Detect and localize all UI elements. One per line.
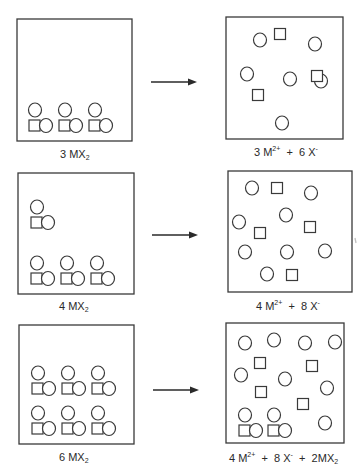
anion-circle: [103, 382, 116, 396]
anion-circle: [31, 200, 44, 214]
anion-circle: [276, 116, 289, 130]
anion-circle: [42, 216, 55, 230]
anion-circle: [32, 406, 45, 420]
anion-circle: [235, 368, 248, 382]
cation-square: [92, 383, 103, 394]
anion-circle: [31, 256, 44, 270]
anion-circle: [29, 103, 42, 117]
anion-circle: [329, 335, 342, 349]
anion-circle: [239, 245, 252, 259]
cation-square: [255, 228, 266, 239]
row1-left-label: 3 MX2: [60, 148, 90, 161]
cation-square: [32, 383, 43, 394]
anion-circle: [70, 119, 83, 133]
cation-square: [29, 120, 40, 131]
anion-circle: [250, 424, 263, 438]
cation-square: [92, 423, 103, 434]
anion-circle: [61, 256, 74, 270]
anion-circle: [92, 406, 105, 420]
cation-square: [287, 270, 298, 281]
row2-left-label: 4 MX2: [59, 300, 89, 313]
anion-circle: [89, 103, 102, 117]
dissolution-diagram: [0, 0, 361, 473]
row3-arrow-head: [190, 387, 199, 394]
cation-square: [62, 383, 73, 394]
anion-circle: [281, 245, 294, 259]
cation-square: [256, 387, 267, 398]
anion-circle: [72, 272, 85, 286]
cation-square: [307, 361, 318, 372]
anion-circle: [43, 382, 56, 396]
anion-circle: [91, 256, 104, 270]
anion-circle: [239, 408, 252, 422]
anion-circle: [233, 215, 246, 229]
anion-circle: [246, 181, 259, 195]
anion-circle: [92, 366, 105, 380]
anion-circle: [241, 67, 254, 81]
anion-circle: [62, 366, 75, 380]
anion-circle: [305, 186, 318, 200]
anion-circle: [279, 372, 292, 386]
anion-circle: [268, 408, 281, 422]
cation-square: [272, 183, 283, 194]
cation-square: [59, 120, 70, 131]
cation-square: [31, 273, 42, 284]
cation-square: [268, 425, 279, 436]
row2-arrow-head: [189, 232, 198, 239]
cation-square: [275, 29, 286, 40]
anion-circle: [100, 119, 113, 133]
cation-square: [312, 71, 323, 82]
anion-circle: [309, 37, 322, 51]
scan-artifact: [355, 238, 356, 243]
anion-circle: [32, 366, 45, 380]
row1-arrow-head: [188, 79, 197, 86]
cation-square: [62, 423, 73, 434]
anion-circle: [42, 272, 55, 286]
anion-circle: [40, 119, 53, 133]
anion-circle: [279, 424, 292, 438]
row3-left-label: 6 MX2: [59, 451, 89, 464]
cation-square: [255, 358, 266, 369]
row3-right-label: 4 M2+ + 8 X- + 2MX2: [229, 451, 338, 465]
anion-circle: [62, 406, 75, 420]
anion-circle: [299, 336, 312, 350]
anion-circle: [102, 272, 115, 286]
anion-circle: [268, 333, 281, 347]
anion-circle: [319, 244, 332, 258]
anion-circle: [254, 33, 267, 47]
anion-circle: [73, 382, 86, 396]
cation-square: [253, 90, 264, 101]
anion-circle: [43, 422, 56, 436]
anion-circle: [280, 208, 293, 222]
anion-circle: [321, 381, 334, 395]
anion-circle: [284, 72, 297, 86]
cation-square: [305, 222, 316, 233]
anion-circle: [73, 422, 86, 436]
row1-right-label: 3 M2+ + 6 X-: [254, 145, 318, 158]
anion-circle: [319, 416, 332, 430]
anion-circle: [239, 336, 252, 350]
anion-circle: [261, 267, 274, 281]
cation-square: [239, 425, 250, 436]
cation-square: [32, 423, 43, 434]
anion-circle: [103, 422, 116, 436]
cation-square: [31, 217, 42, 228]
cation-square: [89, 120, 100, 131]
cation-square: [298, 399, 309, 410]
anion-circle: [59, 103, 72, 117]
cation-square: [91, 273, 102, 284]
row2-right-label: 4 M2+ + 8 X-: [256, 299, 320, 312]
cation-square: [61, 273, 72, 284]
